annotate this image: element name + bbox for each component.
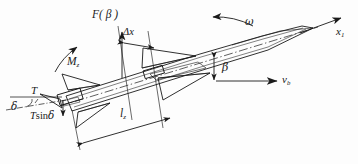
body-axis-subscript: 1 <box>341 31 344 38</box>
length-subscript: z <box>123 113 126 121</box>
diagram-canvas <box>0 0 358 164</box>
body-centerline <box>60 27 318 106</box>
moment-subscript: z <box>77 61 80 69</box>
length-label: lz <box>120 108 126 121</box>
velocity-label: vb <box>282 74 290 87</box>
beta-label: β <box>222 62 228 73</box>
midbody-fin-lower <box>158 73 210 100</box>
body-axis-label: x1 <box>336 26 344 39</box>
thrust-label: T <box>31 85 37 96</box>
delta-x-dimension <box>124 43 154 48</box>
missile-body-outline <box>66 26 313 111</box>
thrust-lateral-label: Tsinδ <box>30 110 54 122</box>
tail-fin-lower <box>76 103 110 128</box>
moment-letter: M <box>67 55 77 67</box>
length-dimension <box>83 118 170 143</box>
delta-x-label: Δx <box>123 27 134 38</box>
thrust-lateral-angle: δ <box>48 109 54 121</box>
body-axis-arrow <box>300 18 341 33</box>
thrust-lateral-function: sin <box>36 110 48 121</box>
delta-label: δ <box>11 101 17 112</box>
aero-force-label: F( β ) <box>92 9 118 21</box>
omega-label: ω <box>245 16 254 27</box>
midbody-fin-upper <box>142 48 196 68</box>
moment-label: Mz <box>67 56 79 69</box>
delta-vertex-tick <box>35 99 38 103</box>
diagram-figure: F( β ) Δx ω x1 Mz β vb T δ Tsinδ lz <box>0 0 358 164</box>
station-line-left <box>118 26 132 120</box>
velocity-subscript: b <box>287 79 290 86</box>
extension-line-tail <box>72 110 80 150</box>
